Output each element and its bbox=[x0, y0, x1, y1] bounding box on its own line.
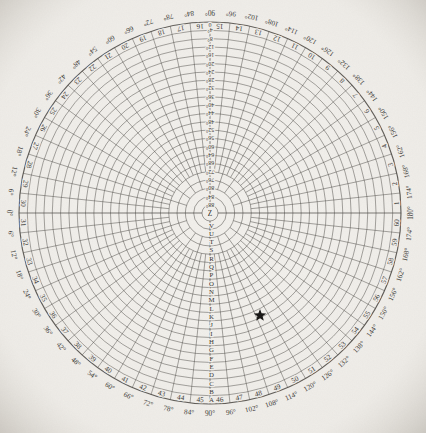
polar-grid-chart: 1234567891011121314151617181920212223242… bbox=[0, 0, 426, 433]
scan-grain-overlay bbox=[0, 0, 426, 433]
scanned-polar-chart-page: 1234567891011121314151617181920212223242… bbox=[0, 0, 426, 433]
